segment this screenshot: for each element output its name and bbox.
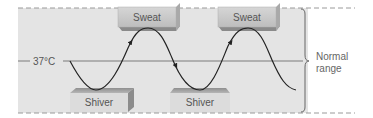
shiver-label: Shiver — [186, 97, 215, 108]
normal-range-label: Normal range — [316, 51, 351, 74]
shiver-block: Shiver — [170, 88, 230, 112]
shiver-block: Shiver — [70, 88, 134, 112]
sweat-block: Sweat — [218, 3, 280, 31]
sweat-label: Sweat — [133, 12, 161, 23]
shiver-label: Shiver — [85, 97, 114, 108]
set-point-label: 37°C — [33, 56, 55, 67]
normal-range-label-line1: Normal — [316, 51, 348, 62]
thermoregulation-diagram: 37°C Sweat Sweat Shiver Shiver Normal ra… — [0, 0, 373, 118]
normal-range-label-line2: range — [316, 63, 342, 74]
sweat-block: Sweat — [118, 3, 180, 31]
sweat-label: Sweat — [233, 12, 261, 23]
